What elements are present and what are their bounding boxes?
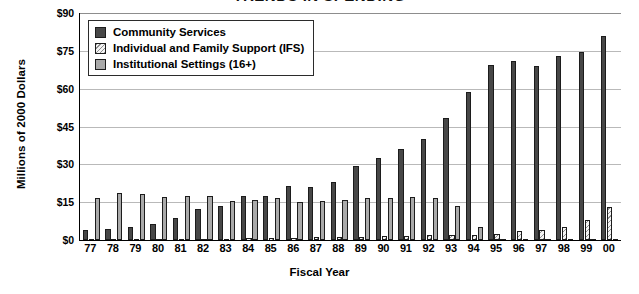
bar <box>89 239 94 241</box>
bar <box>359 237 364 240</box>
bar-group <box>373 13 396 240</box>
bar <box>590 239 595 241</box>
x-tick-label: 83 <box>220 242 232 254</box>
bar <box>128 227 133 240</box>
legend-item[interactable]: Institutional Settings (16+) <box>95 56 304 72</box>
bar <box>331 182 336 240</box>
bar <box>579 52 584 240</box>
bar <box>314 237 319 240</box>
bar <box>613 239 618 241</box>
bar <box>134 239 139 241</box>
x-tick-label: 93 <box>445 242 457 254</box>
bar <box>443 118 448 240</box>
x-tick-label: 77 <box>84 242 96 254</box>
legend-swatch-icon <box>95 59 106 70</box>
x-tick-label: 00 <box>603 242 615 254</box>
bar <box>83 230 88 240</box>
bar <box>365 198 370 240</box>
legend-swatch-icon <box>95 27 106 38</box>
bar <box>494 234 499 240</box>
bar <box>156 239 161 241</box>
bar <box>269 238 274 240</box>
bar <box>517 231 522 240</box>
bar <box>308 187 313 240</box>
bar <box>246 238 251 240</box>
bar <box>388 198 393 240</box>
bar <box>207 196 212 240</box>
x-tick-label: 91 <box>400 242 412 254</box>
bar <box>263 196 268 240</box>
bar <box>241 196 246 240</box>
x-tick-label: 98 <box>558 242 570 254</box>
y-tick-label: $30 <box>57 158 74 170</box>
x-tick-label: 86 <box>287 242 299 254</box>
y-tick-label: $60 <box>57 83 74 95</box>
bar <box>488 65 493 240</box>
bar <box>252 200 257 240</box>
bar <box>179 239 184 241</box>
x-tick-label: 81 <box>175 242 187 254</box>
legend-swatch-icon <box>95 43 106 54</box>
bar <box>195 209 200 240</box>
bar-group <box>486 13 509 240</box>
bar <box>568 239 573 241</box>
bar <box>275 198 280 240</box>
bar-group <box>351 13 374 240</box>
bar <box>455 206 460 240</box>
bar <box>353 166 358 240</box>
bar <box>523 239 528 241</box>
chart-legend: Community ServicesIndividual and Family … <box>88 20 314 76</box>
x-tick-label: 84 <box>242 242 254 254</box>
bar <box>224 239 229 241</box>
bar-group <box>441 13 464 240</box>
bar <box>297 202 302 240</box>
bar-group <box>328 13 351 240</box>
x-tick-label: 82 <box>197 242 209 254</box>
bar <box>376 158 381 240</box>
legend-item[interactable]: Community Services <box>95 24 304 40</box>
bar <box>466 92 471 240</box>
legend-label: Institutional Settings (16+) <box>113 58 256 70</box>
y-tick-label: $15 <box>57 196 74 208</box>
x-tick-label: 88 <box>332 242 344 254</box>
x-axis-title: Fiscal Year <box>0 266 639 278</box>
y-tick-label: $75 <box>57 45 74 57</box>
bar <box>173 218 178 240</box>
x-tick-label: 85 <box>265 242 277 254</box>
bar <box>500 239 505 241</box>
bar <box>291 238 296 240</box>
bar <box>105 229 110 240</box>
bar <box>382 236 387 240</box>
legend-item[interactable]: Individual and Family Support (IFS) <box>95 40 304 56</box>
bar <box>511 61 516 240</box>
chart-title: TRENDS IN SPENDING <box>0 0 639 4</box>
bar-group <box>396 13 419 240</box>
chart-container: TRENDS IN SPENDING Millions of 2000 Doll… <box>0 0 639 294</box>
y-tick-label: $90 <box>57 7 74 19</box>
bar <box>320 201 325 240</box>
bar-group <box>576 13 599 240</box>
bar <box>545 239 550 241</box>
x-tick-label: 92 <box>422 242 434 254</box>
bar <box>449 235 454 240</box>
x-tick-label: 78 <box>107 242 119 254</box>
bar <box>404 236 409 240</box>
legend-label: Community Services <box>113 26 226 38</box>
bar <box>556 56 561 240</box>
bar <box>585 220 590 240</box>
bar <box>286 186 291 240</box>
bar <box>218 206 223 240</box>
x-tick-label: 94 <box>468 242 480 254</box>
bar <box>230 201 235 240</box>
bar <box>342 200 347 240</box>
bar <box>427 235 432 240</box>
bar-group <box>553 13 576 240</box>
y-tick-label: $45 <box>57 121 74 133</box>
bar-group <box>531 13 554 240</box>
bar <box>337 237 342 240</box>
bar-group <box>598 13 621 240</box>
bar <box>601 36 606 240</box>
x-tick-label: 80 <box>152 242 164 254</box>
bar <box>539 230 544 240</box>
bar <box>95 198 100 240</box>
